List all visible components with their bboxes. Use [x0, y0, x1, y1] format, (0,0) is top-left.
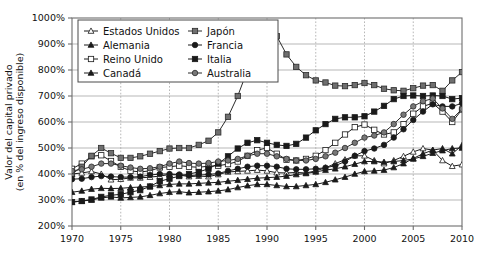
data-point-marker	[420, 93, 425, 98]
data-point-marker	[118, 163, 124, 169]
data-point-marker	[255, 151, 261, 157]
data-point-marker	[381, 86, 386, 91]
data-point-marker	[108, 193, 113, 198]
data-point-marker	[147, 184, 152, 189]
data-point-marker	[401, 112, 407, 118]
data-point-marker	[225, 168, 231, 174]
data-point-marker	[391, 130, 396, 135]
data-point-marker	[284, 143, 289, 148]
data-point-marker	[372, 127, 377, 132]
data-point-marker	[147, 172, 153, 178]
x-tick-label: 1970	[60, 233, 84, 244]
data-point-marker	[196, 161, 202, 167]
data-point-marker	[352, 82, 357, 87]
data-point-marker	[430, 96, 436, 102]
chart-figure: Valor del capital privado(en % del ingre…	[0, 0, 480, 253]
data-point-marker	[186, 171, 191, 176]
data-point-marker	[303, 167, 309, 173]
data-point-marker	[303, 73, 308, 78]
data-point-marker	[89, 153, 94, 158]
legend-label: Reino Unido	[103, 54, 163, 65]
data-point-marker	[235, 156, 241, 162]
x-tick-label: 1975	[109, 233, 133, 244]
data-point-marker	[118, 155, 123, 160]
data-point-marker	[79, 167, 85, 173]
x-tick-label: 1985	[206, 233, 230, 244]
data-point-marker	[138, 154, 143, 159]
data-point-marker	[391, 135, 397, 141]
data-point-marker	[420, 104, 425, 109]
data-point-marker	[333, 83, 338, 88]
data-point-marker	[333, 140, 338, 145]
data-point-marker	[440, 93, 445, 98]
data-point-marker	[313, 166, 319, 172]
data-point-marker	[372, 82, 377, 87]
data-point-marker	[147, 166, 153, 172]
data-point-marker	[411, 93, 416, 98]
data-point-marker	[323, 154, 329, 160]
data-point-marker	[235, 166, 241, 172]
y-tick-label: 200%	[38, 220, 65, 231]
data-point-marker	[450, 96, 455, 101]
data-point-marker	[440, 106, 446, 112]
data-point-marker	[157, 148, 162, 153]
data-point-marker	[294, 64, 299, 69]
y-axis-label-text: Valor del capital privado(en % del ingre…	[3, 53, 25, 192]
data-point-marker	[235, 93, 240, 98]
data-point-marker	[192, 70, 198, 76]
data-point-marker	[264, 145, 269, 150]
private-capital-line-chart: Valor del capital privado(en % del ingre…	[0, 0, 480, 253]
data-point-marker	[411, 104, 417, 110]
data-point-marker	[362, 148, 368, 154]
data-point-marker	[89, 174, 95, 180]
y-tick-label: 400%	[38, 168, 65, 179]
data-point-marker	[294, 158, 300, 164]
data-point-marker	[391, 96, 396, 101]
data-point-marker	[108, 151, 113, 156]
data-point-marker	[381, 103, 386, 108]
data-point-marker	[294, 141, 299, 146]
y-tick-label: 300%	[38, 194, 65, 205]
data-point-marker	[342, 115, 347, 120]
data-point-marker	[401, 88, 406, 93]
data-point-marker	[323, 147, 328, 152]
data-point-marker	[79, 176, 85, 182]
data-point-marker	[274, 164, 280, 170]
data-point-marker	[206, 138, 211, 143]
data-point-marker	[167, 146, 172, 151]
legend-label: Canadá	[103, 68, 141, 79]
data-point-marker	[157, 179, 162, 184]
data-point-marker	[167, 161, 173, 167]
data-point-marker	[264, 151, 270, 157]
data-point-marker	[284, 156, 290, 162]
data-point-marker	[177, 173, 182, 178]
data-point-marker	[138, 166, 144, 172]
data-point-marker	[157, 164, 163, 170]
data-point-marker	[186, 145, 191, 150]
data-point-marker	[245, 153, 251, 159]
data-point-marker	[128, 190, 133, 195]
data-point-marker	[372, 133, 378, 139]
data-point-marker	[108, 161, 114, 167]
data-point-marker	[381, 142, 387, 148]
data-point-marker	[420, 98, 426, 104]
data-point-marker	[186, 160, 192, 166]
y-tick-label: 600%	[38, 116, 65, 127]
data-point-marker	[333, 116, 338, 121]
chart-legend[interactable]: Estados UnidosJapónAlemaniaFranciaReino …	[78, 20, 278, 82]
data-point-marker	[99, 194, 104, 199]
x-tick-label: 2005	[401, 233, 425, 244]
data-point-marker	[225, 114, 230, 119]
data-point-marker	[216, 171, 222, 177]
data-point-marker	[352, 153, 358, 159]
data-point-marker	[264, 163, 270, 169]
data-point-marker	[192, 56, 197, 61]
legend-label: Alemania	[103, 40, 150, 51]
data-point-marker	[225, 158, 231, 164]
data-point-marker	[362, 135, 368, 141]
data-point-marker	[118, 192, 123, 197]
data-point-marker	[255, 138, 260, 143]
data-point-marker	[362, 114, 367, 119]
data-point-marker	[118, 174, 124, 180]
data-point-marker	[342, 83, 347, 88]
